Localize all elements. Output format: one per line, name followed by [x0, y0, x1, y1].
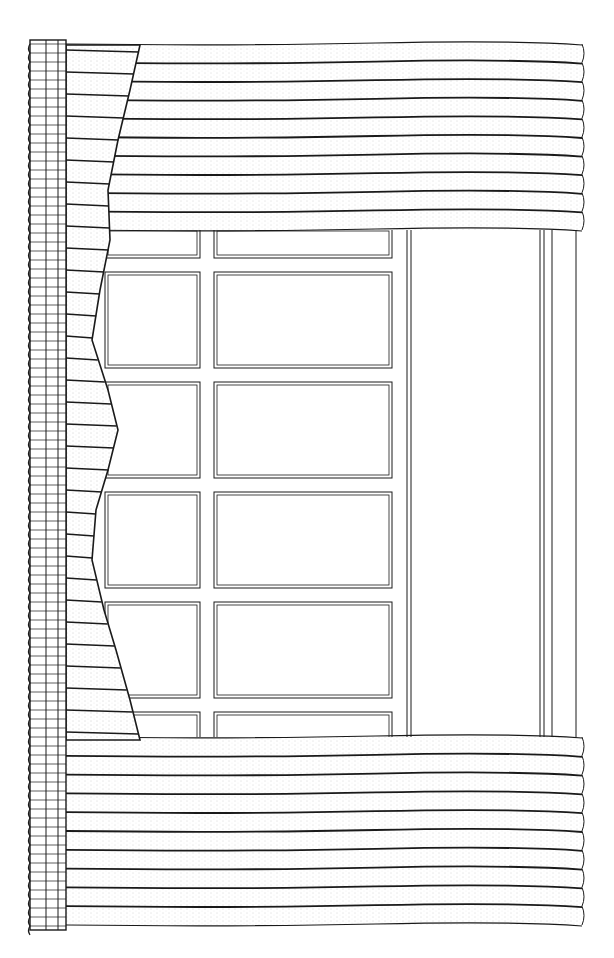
- window-drapery-illustration: [0, 0, 614, 958]
- gathered-heading-strip: [29, 40, 67, 935]
- window-panes: [105, 228, 392, 742]
- top-drape: [66, 42, 584, 231]
- bottom-drape: [66, 735, 584, 926]
- window-frame: [407, 228, 576, 740]
